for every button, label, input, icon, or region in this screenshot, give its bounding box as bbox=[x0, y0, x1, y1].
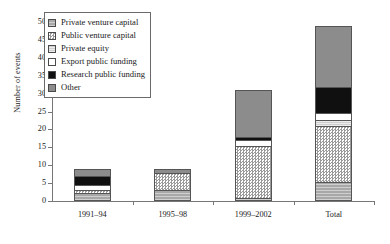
x-axis-tick bbox=[213, 201, 214, 205]
bar-segment-other bbox=[75, 170, 110, 177]
bar-segment-private-venture-capital bbox=[316, 182, 351, 200]
legend-item: Private venture capital bbox=[48, 16, 145, 29]
private-venture-capital-swatch bbox=[48, 19, 56, 27]
x-axis-tick-label: Total bbox=[325, 210, 342, 219]
export-public-funding-swatch bbox=[48, 58, 56, 66]
legend-item: Other bbox=[48, 81, 145, 94]
legend-item: Public venture capital bbox=[48, 29, 145, 42]
stacked-bar bbox=[235, 90, 272, 201]
y-axis-tick bbox=[48, 112, 52, 113]
bar-segment-private-venture-capital bbox=[155, 190, 190, 200]
x-axis-tick bbox=[294, 201, 295, 205]
bar-segment-private-venture-capital bbox=[236, 198, 271, 200]
stacked-bar bbox=[315, 26, 352, 201]
legend-item: Private equity bbox=[48, 42, 145, 55]
x-axis-tick bbox=[374, 201, 375, 205]
y-axis-tick-label: 0 bbox=[42, 197, 46, 205]
bar-segment-research-public-funding bbox=[75, 176, 110, 184]
x-axis-tick bbox=[133, 201, 134, 205]
public-venture-capital-swatch bbox=[48, 32, 56, 40]
y-axis-tick bbox=[48, 147, 52, 148]
y-axis-tick bbox=[48, 165, 52, 166]
bar-chart: Number of events 05101520253035404550 19… bbox=[0, 0, 390, 244]
other-swatch bbox=[48, 84, 56, 92]
y-axis-tick bbox=[48, 183, 52, 184]
research-public-funding-swatch bbox=[48, 71, 56, 79]
y-axis-tick bbox=[48, 129, 52, 130]
legend-item-label: Private equity bbox=[61, 44, 109, 53]
y-axis-tick bbox=[48, 201, 52, 202]
x-axis-tick-label: 1999–2002 bbox=[235, 210, 272, 219]
y-axis-tick-label: 5 bbox=[42, 179, 46, 187]
bar-segment-export-public-funding bbox=[316, 113, 351, 120]
bar-segment-public-venture-capital bbox=[155, 173, 190, 190]
legend-item-label: Public venture capital bbox=[61, 31, 136, 40]
legend-item-label: Export public funding bbox=[61, 57, 137, 66]
bar-segment-public-venture-capital bbox=[236, 146, 271, 199]
y-axis-tick-label: 20 bbox=[38, 125, 46, 133]
bar-segment-other bbox=[316, 27, 351, 87]
legend-item-label: Research public funding bbox=[61, 70, 145, 79]
y-axis-tick-label: 25 bbox=[38, 107, 46, 115]
y-axis-tick-label: 10 bbox=[38, 161, 46, 169]
legend-item-label: Other bbox=[61, 83, 81, 92]
legend: Private venture capitalPublic venture ca… bbox=[44, 12, 151, 98]
private-equity-swatch bbox=[48, 45, 56, 53]
bar-segment-other bbox=[236, 91, 271, 137]
bar-segment-private-venture-capital bbox=[75, 193, 110, 200]
legend-item: Research public funding bbox=[48, 68, 145, 81]
legend-item: Export public funding bbox=[48, 55, 145, 68]
x-axis-tick-label: 1991–94 bbox=[78, 210, 107, 219]
bar-segment-public-venture-capital bbox=[316, 126, 351, 183]
bar-segment-research-public-funding bbox=[316, 87, 351, 114]
stacked-bar bbox=[154, 169, 191, 201]
y-axis-label: Number of events bbox=[13, 28, 22, 138]
legend-item-label: Private venture capital bbox=[61, 18, 138, 27]
x-axis-tick-label: 1995–98 bbox=[158, 210, 187, 219]
y-axis-tick-label: 15 bbox=[38, 143, 46, 151]
stacked-bar bbox=[74, 169, 111, 201]
